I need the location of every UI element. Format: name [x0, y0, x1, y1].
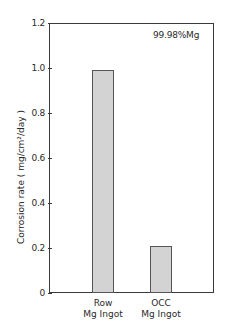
y-tick [48, 113, 52, 114]
y-tick [48, 293, 52, 294]
y-axis-label: Corrosion rate ( mg/cm²/day ) [16, 105, 26, 250]
y-tick-label: 1.0 [19, 63, 45, 73]
x-tick-label: RowMg Ingot [73, 298, 133, 320]
y-tick [48, 68, 52, 69]
y-tick [48, 158, 52, 159]
plot-frame [49, 23, 214, 293]
y-tick-label: 1.2 [19, 18, 45, 28]
y-tick [48, 203, 52, 204]
x-tick-label: OCCMg Ingot [131, 298, 191, 320]
y-tick [48, 248, 52, 249]
y-tick [48, 23, 52, 24]
bar [92, 70, 114, 293]
bar [150, 246, 172, 293]
chart-annotation: 99.98%Mg [153, 30, 199, 40]
y-tick-label: 0 [19, 288, 45, 298]
